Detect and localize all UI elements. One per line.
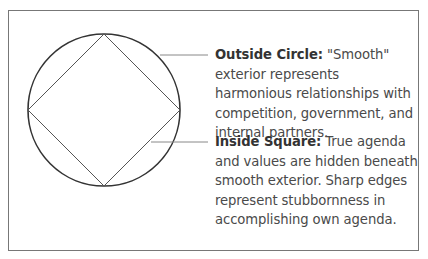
callout-inside-square: Inside Square: True agenda and values ar…: [215, 132, 420, 230]
callout-title: Inside Square:: [215, 134, 321, 149]
callout-title: Outside Circle:: [215, 47, 323, 62]
outside-circle-shape: [28, 34, 180, 186]
callout-outside-circle: Outside Circle: "Smooth" exterior repres…: [215, 45, 420, 143]
